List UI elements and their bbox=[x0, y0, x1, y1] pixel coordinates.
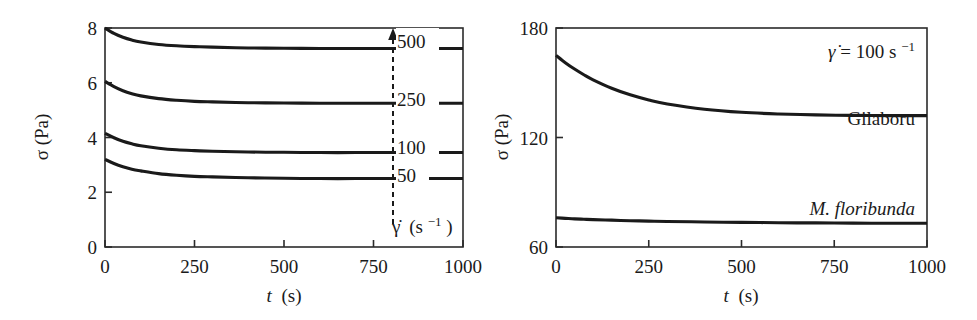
left-y-tick-labels: 0 2 4 6 8 bbox=[88, 18, 98, 258]
left-x-tick-500: 500 bbox=[270, 256, 299, 277]
annotation-equation: = 100 s bbox=[840, 41, 896, 62]
left-x-tick-250: 250 bbox=[180, 256, 209, 277]
left-plot-svg: 0 2 4 6 8 σ (Pa) 0 250 500 750 10 bbox=[0, 0, 490, 320]
legend-label-500: 500 bbox=[397, 31, 426, 52]
legend-axis-title: γ̇ (s −1 ) bbox=[391, 209, 453, 238]
left-legend: 500 250 100 50 γ̇ (s −1 ) bbox=[388, 28, 452, 238]
left-x-axis-var: t bbox=[266, 285, 272, 306]
annotation-exponent: −1 bbox=[901, 39, 915, 54]
left-x-tick-0: 0 bbox=[100, 256, 110, 277]
left-y-tick-0: 0 bbox=[88, 237, 98, 258]
left-x-ticks bbox=[105, 240, 463, 247]
left-x-axis-unit: (s) bbox=[281, 285, 301, 307]
chart-panel-left: 0 2 4 6 8 σ (Pa) 0 250 500 750 10 bbox=[0, 0, 490, 320]
left-x-tick-750: 750 bbox=[359, 256, 388, 277]
right-y-tick-180: 180 bbox=[520, 18, 549, 39]
right-y-tick-labels: 60 120 180 bbox=[520, 18, 549, 258]
curve-label-m-floribunda: M. floribunda bbox=[808, 198, 915, 219]
left-y-tick-8: 8 bbox=[88, 18, 98, 39]
chart-panel-right: 60 120 180 σ (Pa) 0 250 500 750 1000 bbox=[490, 0, 977, 320]
left-y-tick-4: 4 bbox=[88, 128, 98, 149]
right-x-tick-1000: 1000 bbox=[908, 256, 946, 277]
left-x-tick-labels: 0 250 500 750 1000 bbox=[100, 256, 482, 277]
right-x-ticks bbox=[556, 240, 927, 247]
left-x-axis-title: t (s) bbox=[266, 285, 301, 307]
legend-label-250: 250 bbox=[397, 89, 426, 110]
legend-unit-close: ) bbox=[446, 216, 452, 238]
right-x-axis-title: t (s) bbox=[723, 285, 758, 307]
legend-unit-open: (s bbox=[409, 216, 423, 238]
legend-label-100: 100 bbox=[397, 137, 426, 158]
figure-container: 0 2 4 6 8 σ (Pa) 0 250 500 750 10 bbox=[0, 0, 977, 320]
right-x-tick-0: 0 bbox=[551, 256, 561, 277]
right-x-tick-500: 500 bbox=[727, 256, 756, 277]
left-y-axis-title: σ (Pa) bbox=[31, 114, 53, 161]
right-x-axis-var: t bbox=[723, 285, 729, 306]
right-x-tick-250: 250 bbox=[635, 256, 664, 277]
legend-gamma-dot-symbol: γ̇ bbox=[391, 216, 402, 237]
legend-label-50: 50 bbox=[397, 165, 416, 186]
right-y-axis-title: σ (Pa) bbox=[491, 114, 513, 161]
curve-label-gilaboru: Gilaboru bbox=[847, 108, 915, 129]
left-y-tick-2: 2 bbox=[88, 182, 98, 203]
left-y-tick-6: 6 bbox=[88, 73, 98, 94]
legend-unit-exp: −1 bbox=[428, 214, 442, 229]
shear-rate-annotation: γ̇ = 100 s −1 bbox=[828, 39, 915, 62]
right-x-tick-750: 750 bbox=[820, 256, 849, 277]
right-plot-svg: 60 120 180 σ (Pa) 0 250 500 750 1000 bbox=[490, 0, 977, 320]
right-y-tick-120: 120 bbox=[520, 128, 549, 149]
right-x-tick-labels: 0 250 500 750 1000 bbox=[551, 256, 946, 277]
left-x-tick-1000: 1000 bbox=[444, 256, 482, 277]
curve-gilaboru bbox=[556, 55, 927, 115]
right-y-tick-60: 60 bbox=[529, 237, 548, 258]
right-x-axis-unit: (s) bbox=[738, 285, 758, 307]
